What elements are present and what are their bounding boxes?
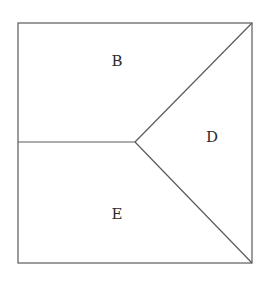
region-label-d: D <box>206 128 218 146</box>
partition-diagram: B D E <box>0 0 266 284</box>
region-label-b: B <box>111 52 122 70</box>
region-label-e: E <box>112 205 123 223</box>
edge-upper-diagonal <box>135 23 252 142</box>
edge-lower-diagonal <box>135 142 252 263</box>
